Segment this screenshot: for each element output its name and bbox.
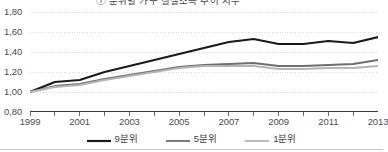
chart-legend: 9분위5분위1분위: [0, 131, 383, 147]
x-axis-tick-label: 2001: [69, 116, 90, 127]
bottom-divider: [0, 149, 383, 150]
y-axis-tick-labels: 1,801,601,401,201,000,80: [2, 12, 30, 112]
x-axis-tick-label: 1999: [20, 116, 41, 127]
y-axis-tick-label: 1,20: [4, 67, 30, 77]
x-axis-tick-label: 2005: [169, 116, 190, 127]
x-axis-tick-label: 2009: [268, 116, 289, 127]
legend-item-1[interactable]: 9분위: [87, 130, 138, 148]
chart-title-text: ① 분위별 가구 실질소득 추이 지수: [96, 0, 240, 7]
y-axis-tick-label: 1,00: [4, 87, 30, 97]
chart-title-clipped: ① 분위별 가구 실질소득 추이 지수: [0, 0, 383, 9]
legend-line-swatch: [166, 130, 190, 148]
x-axis-tick-label: 2011: [318, 116, 338, 127]
legend-label: 5분위: [194, 134, 217, 144]
y-axis-tick-label: 1,60: [4, 27, 30, 37]
legend-label: 1분위: [273, 134, 296, 144]
plot-area: [30, 12, 378, 112]
legend-line-swatch: [245, 130, 269, 148]
series-line-2: [30, 60, 378, 92]
legend-label: 9분위: [115, 134, 138, 144]
x-axis-tick-label: 2013: [368, 116, 388, 127]
y-axis-tick-label: 1,80: [4, 7, 30, 17]
x-axis-tick-labels: 19992001200320052007200920112013: [30, 116, 378, 130]
series-lines: [30, 37, 378, 92]
y-axis-tick-label: 1,40: [4, 47, 30, 57]
legend-line-swatch: [87, 130, 111, 148]
x-axis-tick-label: 2007: [219, 116, 240, 127]
legend-item-3[interactable]: 1분위: [245, 130, 296, 148]
legend-item-2[interactable]: 5분위: [166, 130, 217, 148]
x-axis-tick-label: 2003: [119, 116, 140, 127]
plot-svg: [30, 12, 378, 117]
